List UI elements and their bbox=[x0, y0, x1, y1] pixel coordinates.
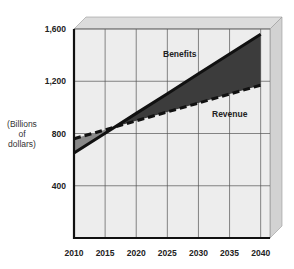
x-tick-label: 2030 bbox=[189, 248, 208, 258]
y-tick-label: 400 bbox=[52, 181, 66, 191]
x-tick-label: 2020 bbox=[127, 248, 146, 258]
y-tick-label: 1,200 bbox=[45, 76, 67, 86]
x-tick-labels: 2010201520202025203020352040 bbox=[65, 248, 271, 258]
x-tick-label: 2015 bbox=[96, 248, 115, 258]
chart-canvas: 4008001,2001,600 20102015202020252030203… bbox=[0, 0, 294, 269]
x-tick-label: 2025 bbox=[158, 248, 177, 258]
y-axis-label-line2: of bbox=[18, 129, 26, 139]
y-tick-label: 1,600 bbox=[45, 24, 67, 34]
annotation-benefits: Benefits bbox=[163, 49, 197, 59]
chart-frame-right bbox=[270, 17, 282, 238]
x-tick-label: 2040 bbox=[251, 248, 270, 258]
y-tick-label: 800 bbox=[52, 129, 66, 139]
y-tick-labels: 4008001,2001,600 bbox=[45, 24, 67, 191]
annotation-revenue: Revenue bbox=[212, 109, 248, 119]
x-tick-label: 2035 bbox=[220, 248, 239, 258]
y-axis-label-line3: dollars) bbox=[8, 139, 36, 149]
chart-frame-top bbox=[74, 17, 282, 29]
y-axis-label-line1: (Billions bbox=[7, 119, 37, 129]
x-tick-label: 2010 bbox=[65, 248, 84, 258]
